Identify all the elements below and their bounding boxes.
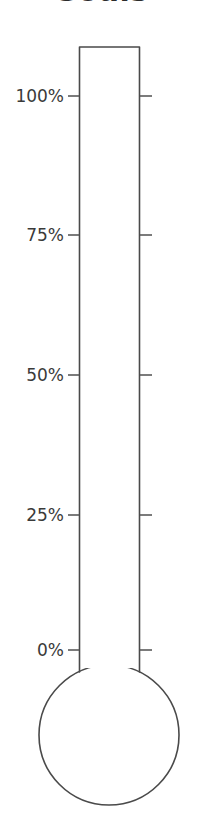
thermometer-outline [39, 47, 179, 805]
thermometer-bulb [39, 665, 179, 805]
thermometer-tube [80, 47, 140, 668]
tick-label-75: 75% [0, 227, 64, 244]
tick-label-100: 100% [0, 88, 64, 105]
tick-label-50: 50% [0, 367, 64, 384]
thermometer-chart: Goals [0, 0, 201, 833]
tick-label-0: 0% [0, 642, 64, 659]
tick-label-25: 25% [0, 507, 64, 524]
thermometer-graphic [0, 0, 201, 833]
